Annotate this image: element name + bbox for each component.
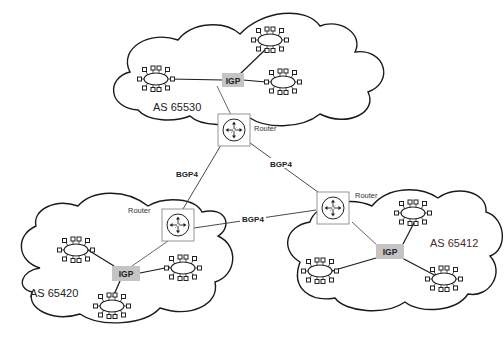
router-icon [317,192,349,224]
router-label-3: Router [355,191,378,200]
bgp-network-diagram: IGP AS 65530 IGP AS 65420 IGP AS 65412 R… [0,0,504,343]
igp-label-65412: IGP [383,247,398,257]
igp-label-65530: IGP [226,76,241,86]
as-label-65420: AS 65420 [30,287,78,299]
router-label-1: Router [254,124,277,133]
bgp-label-r2-r3: BGP4 [242,215,264,224]
router-icon [162,209,194,241]
bgp-label-r1-r3: BGP4 [270,160,292,169]
as-label-65530: AS 65530 [153,101,201,113]
router-label-2: Router [128,206,151,215]
igp-label-65420: IGP [119,269,134,279]
router-icon [218,114,250,146]
as-label-65412: AS 65412 [430,237,478,249]
bgp-label-r1-r2: BGP4 [176,170,198,179]
